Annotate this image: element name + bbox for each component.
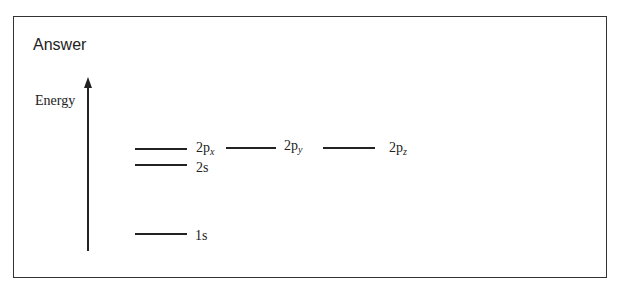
level-1s-line [135, 233, 187, 235]
level-2py-main: 2p [284, 138, 298, 153]
level-2px-sub: x [210, 146, 214, 157]
answer-frame [13, 16, 607, 278]
level-2s-line [135, 164, 187, 166]
energy-axis-label: Energy [35, 93, 75, 109]
level-2pz-line [323, 147, 375, 149]
level-1s-label: 1s [195, 228, 207, 244]
level-2py-sub: y [298, 144, 302, 155]
level-2pz-label: 2pz [389, 140, 407, 157]
level-2pz-sub: z [403, 146, 407, 157]
level-2px-line [135, 148, 187, 150]
level-2py-line [226, 147, 276, 149]
level-2pz-main: 2p [389, 140, 403, 155]
level-2px-label: 2px [196, 140, 214, 157]
level-2py-label: 2py [284, 138, 302, 155]
level-2s-label: 2s [196, 160, 208, 176]
level-2px-main: 2p [196, 140, 210, 155]
energy-axis-line [87, 86, 89, 251]
answer-title: Answer [33, 36, 86, 54]
